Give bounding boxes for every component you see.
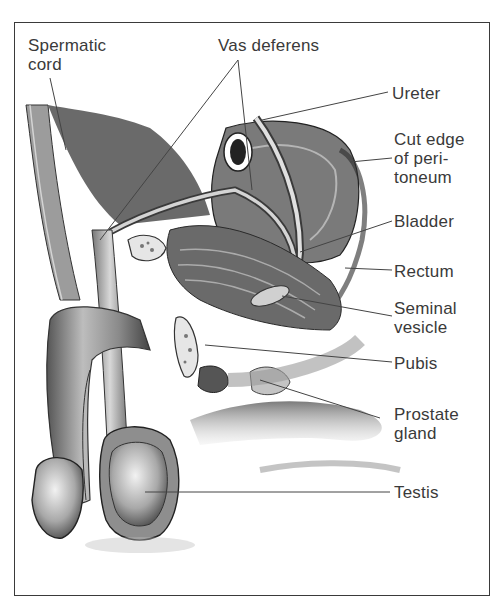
label-bladder: Bladder: [394, 212, 454, 231]
label-testis: Testis: [394, 483, 439, 502]
testis-shape: [85, 427, 195, 553]
label-ureter: Ureter: [392, 84, 440, 103]
label-prostate-gland: Prostate gland: [394, 405, 459, 443]
label-pubis: Pubis: [394, 354, 438, 373]
label-rectum: Rectum: [394, 262, 454, 281]
leader-pubis: [205, 345, 392, 362]
label-cut-edge-peritoneum: Cut edge of peri- toneum: [394, 130, 465, 187]
label-seminal-vesicle: Seminal vesicle: [394, 299, 457, 337]
label-vas-deferens: Vas deferens: [218, 36, 319, 55]
perineum-shadow: [190, 401, 382, 445]
leader-cut-edge: [350, 158, 392, 162]
label-spermatic-cord: Spermatic cord: [28, 36, 106, 74]
leader-ureter: [262, 92, 388, 120]
